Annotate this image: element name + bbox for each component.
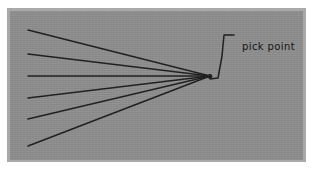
ray-5 — [28, 76, 210, 119]
converging-rays-drawing — [10, 11, 303, 160]
pick-point-leader — [210, 35, 234, 79]
drawing-plate: pick point — [10, 11, 303, 160]
pick-point-label: pick point — [242, 41, 295, 52]
ray-1 — [28, 30, 210, 76]
diagram-figure: pick point — [0, 0, 314, 171]
ray-2 — [28, 54, 210, 76]
